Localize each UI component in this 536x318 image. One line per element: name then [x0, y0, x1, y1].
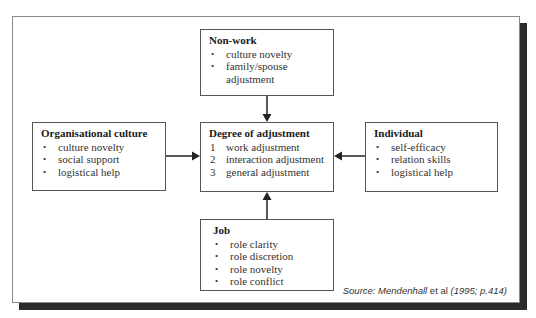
degree-of-adjustment-box: Degree of adjustment 1work adjustment 2i…	[200, 122, 334, 192]
list-item: 2interaction adjustment	[209, 153, 327, 166]
organisational-culture-title: Organisational culture	[41, 127, 159, 140]
job-box: Job •role clarity •role discretion •role…	[200, 219, 334, 291]
bullet-icon: •	[376, 141, 379, 154]
individual-box: Individual •self-efficacy •relation skil…	[365, 122, 498, 192]
degree-of-adjustment-title: Degree of adjustment	[209, 127, 327, 140]
arrow-down-icon	[261, 96, 273, 122]
arrow-up-icon	[261, 192, 273, 219]
bullet-icon: •	[211, 60, 214, 73]
bullet-icon: •	[215, 275, 218, 288]
bullet-icon: •	[43, 166, 46, 179]
list-item: •self-efficacy	[374, 141, 491, 154]
list-item: •role discretion	[213, 250, 327, 263]
bullet-icon: •	[215, 263, 218, 276]
list-item: •role novelty	[213, 263, 327, 276]
list-item: •culture novelty	[209, 48, 327, 61]
bullet-icon: •	[211, 48, 214, 61]
bullet-icon: •	[215, 250, 218, 263]
arrow-right-icon	[166, 150, 200, 162]
arrow-left-icon	[334, 150, 365, 162]
list-item: •social support	[41, 153, 159, 166]
bullet-icon: •	[215, 238, 218, 251]
list-item-continuation: adjustment	[209, 73, 327, 86]
list-item: •relation skills	[374, 153, 491, 166]
job-title: Job	[213, 224, 327, 237]
list-item: 3general adjustment	[209, 166, 327, 179]
list-item: •role conflict	[213, 275, 327, 288]
bullet-icon: •	[43, 153, 46, 166]
bullet-icon: •	[376, 153, 379, 166]
list-item: •logistical help	[41, 166, 159, 179]
bullet-icon: •	[376, 166, 379, 179]
individual-title: Individual	[374, 127, 491, 140]
list-item: •family/spouse	[209, 60, 327, 73]
organisational-culture-box: Organisational culture •culture novelty …	[32, 122, 166, 191]
list-item: •culture novelty	[41, 141, 159, 154]
nonwork-title: Non-work	[209, 34, 327, 47]
list-item: •role clarity	[213, 238, 327, 251]
source-citation: Source: Mendenhall et al (1995; p.414)	[343, 285, 507, 296]
nonwork-box: Non-work •culture novelty •family/spouse…	[200, 29, 334, 96]
bullet-icon: •	[43, 141, 46, 154]
list-item: •logistical help	[374, 166, 491, 179]
diagram-frame: Non-work •culture novelty •family/spouse…	[12, 16, 520, 303]
list-item: 1work adjustment	[209, 141, 327, 154]
